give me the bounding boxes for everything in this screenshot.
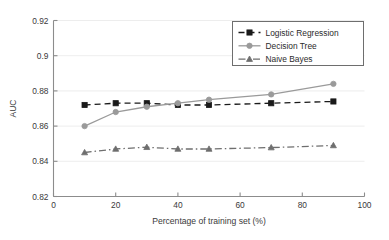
data-point — [331, 99, 336, 104]
x-tick-label-1: 20 — [111, 200, 121, 210]
data-point — [113, 109, 118, 114]
data-point — [175, 101, 180, 106]
x-axis-ticks — [54, 193, 365, 197]
data-point — [82, 102, 87, 107]
x-axis-tick-labels: 020406080100 — [51, 200, 372, 210]
data-point — [144, 104, 149, 109]
data-point — [82, 123, 87, 128]
data-point — [113, 101, 118, 106]
y-tick-label-0: 0.82 — [32, 192, 49, 202]
chart-legend: Logistic RegressionDecision TreeNaive Ba… — [233, 22, 364, 66]
x-tick-label-0: 0 — [51, 200, 56, 210]
data-point — [331, 81, 336, 86]
legend-marker-circle-icon — [247, 43, 252, 48]
x-tick-label-4: 80 — [298, 200, 308, 210]
x-tick-label-2: 40 — [173, 200, 183, 210]
y-tick-label-3: 0.88 — [32, 86, 49, 96]
auc-vs-training-set-line-chart: 020406080100 0.820.840.860.880.90.92 Per… — [0, 0, 389, 240]
y-tick-label-5: 0.92 — [32, 16, 49, 26]
data-point — [269, 101, 274, 106]
x-tick-label-5: 100 — [358, 200, 372, 210]
legend-label: Logistic Regression — [266, 28, 339, 38]
legend-marker-square-icon — [247, 30, 252, 35]
x-tick-label-3: 60 — [235, 200, 245, 210]
y-axis-title: AUC — [8, 99, 18, 117]
y-tick-label-2: 0.86 — [32, 121, 49, 131]
series-naive-bayes — [82, 142, 337, 154]
legend-label: Decision Tree — [266, 41, 318, 51]
data-point — [206, 102, 211, 107]
y-axis-ticks — [54, 21, 58, 197]
y-tick-label-1: 0.84 — [32, 156, 49, 166]
y-tick-label-4: 0.9 — [37, 51, 49, 61]
data-point — [269, 92, 274, 97]
series-layer — [82, 81, 337, 155]
chart-figure: 020406080100 0.820.840.860.880.90.92 Per… — [0, 0, 389, 240]
legend-label: Naive Bayes — [266, 54, 313, 64]
data-point — [206, 97, 211, 102]
y-axis-tick-labels: 0.820.840.860.880.90.92 — [32, 16, 49, 202]
x-axis-title: Percentage of training set (%) — [152, 216, 266, 226]
